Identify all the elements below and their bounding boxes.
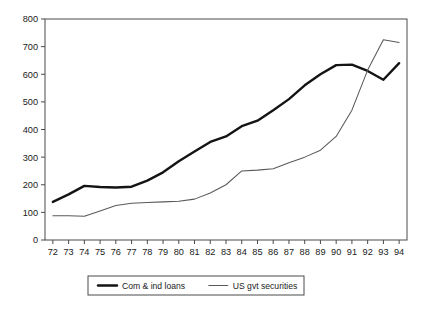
x-tick-label: 84 xyxy=(237,247,247,257)
x-tick-label: 75 xyxy=(95,247,105,257)
x-tick-label: 74 xyxy=(79,247,89,257)
x-tick-label: 86 xyxy=(268,247,278,257)
series-line-com-ind-loans xyxy=(53,63,399,202)
x-tick-label: 87 xyxy=(284,247,294,257)
y-axis-tick-labels: 0100200300400500600700800 xyxy=(23,14,38,245)
x-tick-label: 73 xyxy=(63,247,73,257)
x-tick-label: 78 xyxy=(142,247,152,257)
y-tick-label: 100 xyxy=(23,208,38,218)
x-tick-label: 81 xyxy=(189,247,199,257)
x-tick-label: 79 xyxy=(158,247,168,257)
legend-label-0: Com & ind loans xyxy=(122,281,185,291)
y-tick-label: 800 xyxy=(23,14,38,24)
y-axis-ticks xyxy=(41,19,45,240)
chart-legend: Com & ind loansUS gvt securities xyxy=(88,276,304,295)
x-tick-label: 82 xyxy=(205,247,215,257)
x-tick-label: 89 xyxy=(315,247,325,257)
x-tick-label: 80 xyxy=(174,247,184,257)
y-tick-label: 600 xyxy=(23,70,38,80)
x-tick-label: 92 xyxy=(363,247,373,257)
x-tick-label: 90 xyxy=(331,247,341,257)
x-tick-label: 91 xyxy=(347,247,357,257)
x-tick-label: 93 xyxy=(378,247,388,257)
x-tick-label: 76 xyxy=(111,247,121,257)
y-tick-label: 700 xyxy=(23,42,38,52)
x-axis-ticks xyxy=(53,240,399,244)
y-tick-label: 0 xyxy=(33,235,38,245)
x-tick-label: 85 xyxy=(252,247,262,257)
x-tick-label: 72 xyxy=(48,247,58,257)
y-tick-label: 400 xyxy=(23,125,38,135)
line-chart: 0100200300400500600700800 72737475767778… xyxy=(0,0,422,311)
x-tick-label: 88 xyxy=(300,247,310,257)
data-series-layer xyxy=(53,40,399,217)
x-tick-label: 77 xyxy=(126,247,136,257)
legend-label-1: US gvt securities xyxy=(233,281,297,291)
y-tick-label: 300 xyxy=(23,153,38,163)
x-tick-label: 83 xyxy=(221,247,231,257)
x-axis-tick-labels: 7273747576777879808182838485868788899091… xyxy=(48,247,404,257)
y-tick-label: 500 xyxy=(23,97,38,107)
plot-frame xyxy=(45,19,407,240)
x-tick-label: 94 xyxy=(394,247,404,257)
y-tick-label: 200 xyxy=(23,180,38,190)
series-line-us-gvt-securities xyxy=(53,40,399,217)
chart-figure: 0100200300400500600700800 72737475767778… xyxy=(0,0,422,311)
